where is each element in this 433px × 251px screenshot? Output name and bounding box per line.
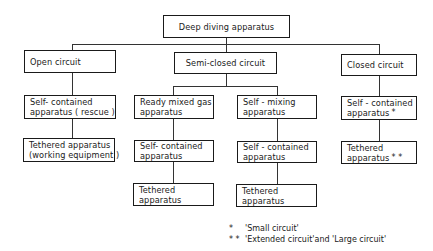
node-label-line2: apparatus: [243, 107, 311, 117]
node-open-self-contained-rescue: Self- contained apparatus ( rescue ): [24, 95, 116, 119]
connector: [173, 162, 174, 183]
node-label: Semi-closed circuit: [186, 58, 265, 68]
node-label: Closed circuit: [347, 60, 411, 70]
node-ready-mixed-self-contained: Self- contained apparatus: [134, 140, 214, 162]
legend-item-extended-large: * *'Extended circuit'and 'Large circuit': [229, 235, 386, 245]
node-self-mixing-tethered: Tethered apparatus: [236, 184, 317, 207]
legend-text: 'Small circuit': [245, 224, 299, 233]
node-label-line2: apparatus: [242, 196, 311, 206]
node-label-line2: apparatus: [243, 152, 311, 162]
node-label-line2: apparatus: [347, 153, 389, 163]
connector: [379, 120, 380, 141]
connector: [72, 73, 73, 95]
legend-mark: *: [229, 224, 245, 234]
node-closed-self-contained: Self - contained apparatus*: [341, 96, 417, 120]
node-closed-circuit: Closed circuit: [341, 54, 417, 76]
connector: [277, 119, 278, 141]
connector: [226, 74, 227, 86]
legend-item-small-circuit: *'Small circuit': [229, 224, 299, 234]
footnote-mark: *: [391, 108, 395, 117]
connector: [173, 119, 174, 140]
node-label-line2: (working equipment ): [29, 150, 109, 160]
node-closed-tethered: Tethered apparatus* *: [341, 141, 417, 164]
footnote-mark: * *: [391, 153, 402, 162]
connector: [72, 119, 73, 138]
connector: [226, 38, 227, 52]
node-label-line1: Self- contained: [30, 97, 110, 107]
node-ready-mixed-tethered: Tethered apparatus: [133, 183, 214, 206]
connector: [72, 44, 379, 45]
node-label-line2: apparatus ( rescue ): [30, 107, 110, 117]
node-label-line2: apparatus: [347, 108, 389, 118]
node-label-line1: Self - contained: [243, 142, 311, 152]
node-self-mixing-self-contained: Self - contained apparatus: [237, 141, 317, 163]
connector: [173, 86, 278, 87]
legend-mark: * *: [229, 235, 245, 245]
node-label-line1: Tethered: [347, 143, 411, 153]
connector: [379, 76, 380, 96]
node-ready-mixed-gas: Ready mixed gas apparatus: [134, 95, 214, 119]
node-open-circuit: Open circuit: [24, 50, 116, 73]
node-self-mixing: Self - mixing apparatus: [237, 95, 317, 119]
node-label-line1: Tethered: [242, 186, 311, 196]
node-label-line1: Self - contained: [347, 98, 411, 108]
diagram-canvas: Deep diving apparatus Open circuit Self-…: [0, 0, 433, 251]
node-label-line1: Tethered apparatus: [29, 140, 109, 150]
node-open-tethered-working: Tethered apparatus (working equipment ): [23, 138, 115, 162]
node-label-line2: apparatus: [139, 195, 208, 205]
node-label-line1: Ready mixed gas: [140, 97, 208, 107]
node-label-line2: apparatus: [140, 151, 208, 161]
connector: [277, 86, 278, 95]
connector: [379, 44, 380, 54]
connector: [173, 86, 174, 95]
connector: [277, 163, 278, 184]
node-label-line1: Self- contained: [140, 141, 208, 151]
node-deep-diving-apparatus: Deep diving apparatus: [163, 15, 290, 38]
node-label: Deep diving apparatus: [179, 22, 274, 32]
node-label: Open circuit: [30, 57, 110, 67]
node-label-line1: Self - mixing: [243, 97, 311, 107]
node-label-line1: Tethered: [139, 185, 208, 195]
node-label-line2: apparatus: [140, 107, 208, 117]
node-semi-closed-circuit: Semi-closed circuit: [174, 52, 277, 74]
legend-text: 'Extended circuit'and 'Large circuit': [245, 235, 386, 244]
